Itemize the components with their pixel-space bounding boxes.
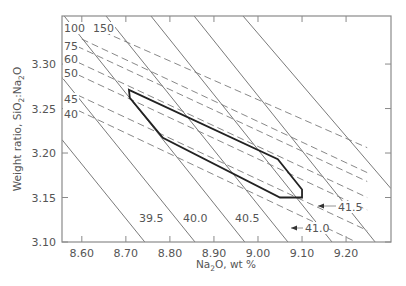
dashed-isoline xyxy=(78,75,367,210)
dashed-isoline xyxy=(78,62,367,197)
y-tick-label: 3.15 xyxy=(32,192,57,205)
solid-isoline xyxy=(151,16,332,242)
solid-isoline xyxy=(243,16,391,189)
solid-isoline-label: 41.5 xyxy=(338,201,363,214)
dashed-isoline-label: 60 xyxy=(64,53,78,66)
y-tick-label: 3.20 xyxy=(32,147,57,160)
x-tick-label: 8.60 xyxy=(70,247,95,260)
y-tick-label: 3.25 xyxy=(32,103,57,116)
dashed-isoline xyxy=(82,39,367,172)
solid-isoline-label: 40.5 xyxy=(235,212,260,225)
dashed-isoline-label: 50 xyxy=(64,67,78,80)
dashed-isoline-label: 40 xyxy=(64,108,78,121)
solid-isoline-label: 39.5 xyxy=(139,212,164,225)
solid-isoline xyxy=(106,16,288,242)
x-tick-label: 9.10 xyxy=(290,247,315,260)
x-tick-label: 8.80 xyxy=(158,247,183,260)
phase-chart: 8.608.708.808.909.009.109.203.103.153.20… xyxy=(0,0,406,286)
solid-isoline-label: 40.0 xyxy=(183,212,208,225)
x-axis-title: Na2O, wt % xyxy=(196,258,256,273)
arrowhead-icon xyxy=(291,226,297,231)
x-tick-label: 9.20 xyxy=(334,247,359,260)
x-tick-label: 8.70 xyxy=(114,247,139,260)
dashed-isoline-label: 45 xyxy=(64,93,78,106)
y-tick-label: 3.10 xyxy=(32,236,57,249)
y-tick-label: 3.30 xyxy=(32,58,57,71)
solid-isoline xyxy=(62,140,145,242)
axis-ticks: 8.608.708.808.909.009.109.203.103.153.20… xyxy=(32,16,392,260)
y-axis-title: Weight ratio, SiO2:Na2O xyxy=(11,67,26,191)
dashed-isoline-label: 75 xyxy=(64,40,78,53)
dashed-isoline xyxy=(78,95,367,230)
solid-isoline-label: 41.0 xyxy=(305,222,330,235)
composition-region xyxy=(129,90,302,198)
dashed-isoline xyxy=(94,28,368,148)
dashed-isolines xyxy=(77,28,367,242)
dashed-isoline-label: 150 xyxy=(93,22,114,35)
dashed-isoline-label: 100 xyxy=(64,22,85,35)
region-polygon xyxy=(129,90,302,198)
dashed-isoline xyxy=(77,46,367,181)
